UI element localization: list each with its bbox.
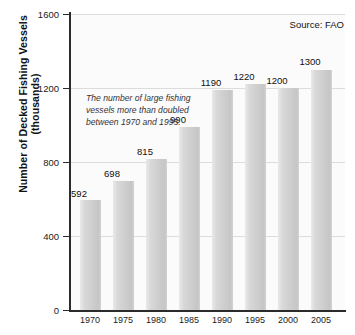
bar-value-2000: 1200: [257, 76, 297, 86]
bar-value-2005: 1300: [290, 57, 330, 67]
bar-chart: Number of Decked Fishing Vessels (thousa…: [0, 0, 355, 335]
bar-1975[interactable]: [113, 181, 134, 310]
x-tick-label-2005: 2005: [301, 316, 341, 325]
bar-1970[interactable]: [80, 200, 101, 310]
bar-1995[interactable]: [245, 84, 266, 310]
bar-value-1980: 815: [125, 147, 165, 157]
bar-value-1975: 698: [92, 169, 132, 179]
bar-1980[interactable]: [146, 159, 167, 310]
bar-1985[interactable]: [179, 127, 200, 310]
source-note: Source: FAO: [290, 19, 344, 30]
bar-value-1970: 592: [59, 189, 99, 199]
trend-annotation: The number of large fishing vessels more…: [86, 92, 198, 129]
bar-1990[interactable]: [212, 90, 233, 310]
bar-2000[interactable]: [278, 88, 299, 310]
bar-2005[interactable]: [311, 70, 332, 311]
bars-layer: [0, 0, 355, 335]
